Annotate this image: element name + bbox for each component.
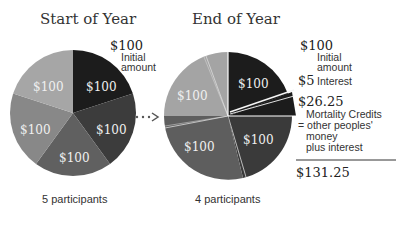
left-footer: 5 participants	[42, 193, 107, 205]
left-slice-label-5: $100	[33, 80, 64, 94]
left-slice-label-1: $100	[86, 80, 117, 94]
right-slice-label-3: $100	[184, 140, 215, 154]
left-initial-note-2: amount	[121, 62, 156, 73]
dotted-arrow	[136, 113, 158, 121]
right-footer: 4 participants	[195, 193, 260, 205]
right-pie	[164, 52, 297, 180]
total-value: $131.25	[296, 165, 350, 180]
mortality-credits-value: $26.25	[298, 94, 344, 109]
interest-value: $5	[298, 73, 315, 88]
right-initial-note-2: amount	[317, 62, 352, 73]
right-slice-label-4: $100	[177, 89, 208, 103]
right-slice-label-2: $100	[243, 133, 274, 147]
left-slice-label-4: $100	[20, 123, 51, 137]
mortality-credits-line-4: plus interest	[306, 142, 363, 153]
right-slice-4	[164, 52, 228, 116]
right-slice-label-1: $100	[238, 77, 269, 91]
interest-note: Interest	[317, 76, 352, 87]
left-slice-label-2: $100	[96, 123, 127, 137]
left-slice-label-3: $100	[59, 151, 90, 165]
